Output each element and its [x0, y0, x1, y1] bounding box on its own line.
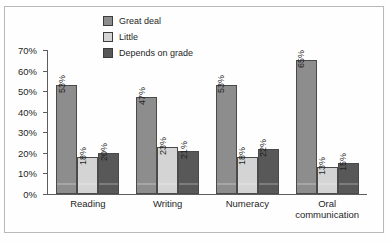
- y-axis-tick: 70%: [43, 50, 47, 51]
- plot-area: 70%60%50%40%30%20%10%0% 53%18%20%47%23%2…: [47, 50, 367, 195]
- bar: 18%: [237, 157, 258, 194]
- bar-value-label: 18%: [78, 147, 88, 165]
- x-axis-line: [47, 194, 367, 195]
- legend-item-great-deal: Great deal: [103, 14, 253, 28]
- y-axis-tick: 30%: [43, 132, 47, 133]
- bar-group: 65%13%15%: [287, 50, 367, 194]
- bar-value-label: 13%: [317, 157, 327, 175]
- bar-value-label: 53%: [57, 75, 67, 93]
- bar-group: 47%23%21%: [128, 50, 208, 194]
- y-axis-tick: 10%: [43, 173, 47, 174]
- bar-value-label: 21%: [179, 141, 189, 159]
- bar-chart-figure: Great deal Little Depends on grade 70%60…: [0, 0, 390, 244]
- bar-groups: 53%18%20%47%23%21%53%18%22%65%13%15%: [48, 50, 367, 194]
- bar-value-label: 47%: [137, 87, 147, 105]
- y-axis-tick-label: 10%: [18, 168, 37, 179]
- bar: 21%: [178, 151, 199, 194]
- x-axis-category-labels: ReadingWritingNumeracyOralcommunication: [48, 198, 367, 220]
- y-axis-tick-label: 40%: [18, 106, 37, 117]
- legend-label-little: Little: [119, 32, 138, 42]
- category-label: Numeracy: [208, 198, 288, 220]
- bar: 13%: [317, 167, 338, 194]
- bar: 18%: [77, 157, 98, 194]
- y-axis-tick-label: 60%: [18, 65, 37, 76]
- bar: 22%: [258, 149, 279, 194]
- y-axis-tick-label: 30%: [18, 127, 37, 138]
- bar-value-label: 20%: [99, 143, 109, 161]
- category-label-line: Oral: [287, 198, 367, 209]
- y-axis-tick-label: 20%: [18, 147, 37, 158]
- y-axis-tick: 40%: [43, 112, 47, 113]
- category-label: Writing: [128, 198, 208, 220]
- bar-value-label: 53%: [216, 75, 226, 93]
- y-axis-tick: 50%: [43, 91, 47, 92]
- legend-label-great-deal: Great deal: [119, 16, 161, 26]
- bar: 53%: [216, 85, 237, 194]
- y-axis-tick: 0%: [43, 194, 47, 195]
- legend-swatch-icon-little: [103, 32, 113, 42]
- category-label-line: Writing: [128, 198, 208, 209]
- category-label: Oralcommunication: [287, 198, 367, 220]
- bar: 53%: [56, 85, 77, 194]
- y-axis-tick: 20%: [43, 153, 47, 154]
- bar-value-label: 18%: [237, 147, 247, 165]
- y-axis-tick-label: 50%: [18, 86, 37, 97]
- bar: 15%: [338, 163, 359, 194]
- bar-group: 53%18%20%: [48, 50, 128, 194]
- bar-value-label: 15%: [338, 153, 348, 171]
- y-axis-tick: 60%: [43, 71, 47, 72]
- category-label-line: communication: [287, 209, 367, 220]
- category-label: Reading: [48, 198, 128, 220]
- bar: 23%: [157, 147, 178, 194]
- category-label-line: Reading: [48, 198, 128, 209]
- legend-swatch-icon-great-deal: [103, 16, 113, 26]
- bar-value-label: 23%: [158, 137, 168, 155]
- bar-value-label: 22%: [258, 139, 268, 157]
- bar: 20%: [98, 153, 119, 194]
- y-axis-tick-label: 0%: [23, 189, 37, 200]
- bar-value-label: 65%: [296, 50, 306, 68]
- y-axis-tick-label: 70%: [18, 45, 37, 56]
- legend-item-little: Little: [103, 30, 253, 44]
- category-label-line: Numeracy: [208, 198, 288, 209]
- bar-group: 53%18%22%: [208, 50, 288, 194]
- bar: 65%: [296, 60, 317, 194]
- bar: 47%: [136, 97, 157, 194]
